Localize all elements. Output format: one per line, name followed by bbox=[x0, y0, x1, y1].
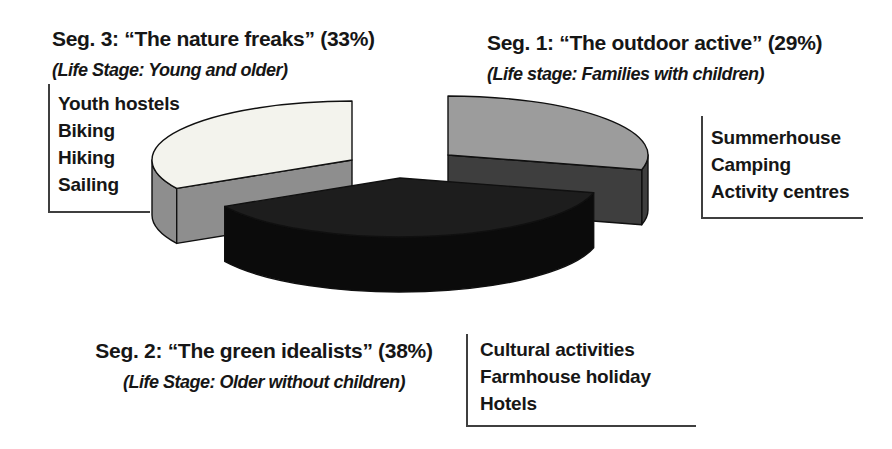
seg3-activity-item: Sailing bbox=[58, 171, 150, 198]
seg3-title-block: Seg. 3: “The nature freaks” (33%) (Life … bbox=[52, 26, 375, 82]
seg1-title: Seg. 1: “The outdoor active” (29%) bbox=[487, 30, 822, 56]
seg1-activity-item: Camping bbox=[711, 151, 863, 178]
seg2-title: Seg. 2: “The green idealists” (38%) bbox=[58, 338, 470, 364]
seg3-activities-callout: Youth hostels Biking Hiking Sailing bbox=[48, 84, 150, 213]
seg2-subtitle: (Life Stage: Older without children) bbox=[58, 370, 470, 394]
seg1-activities-callout: Summerhouse Camping Activity centres bbox=[701, 116, 863, 219]
seg3-activity-item: Hiking bbox=[58, 144, 150, 171]
seg2-activity-item: Farmhouse holiday bbox=[480, 363, 696, 390]
pie-chart-figure: Seg. 3: “The nature freaks” (33%) (Life … bbox=[0, 0, 892, 449]
seg3-subtitle: (Life Stage: Young and older) bbox=[52, 58, 375, 82]
seg3-title: Seg. 3: “The nature freaks” (33%) bbox=[52, 26, 375, 52]
seg2-activity-item: Hotels bbox=[480, 390, 696, 417]
seg1-title-block: Seg. 1: “The outdoor active” (29%) (Life… bbox=[487, 30, 822, 86]
seg2-activity-item: Cultural activities bbox=[480, 336, 696, 363]
seg1-activity-item: Summerhouse bbox=[711, 124, 863, 151]
seg3-activity-item: Youth hostels bbox=[58, 90, 150, 117]
seg3-activity-item: Biking bbox=[58, 117, 150, 144]
seg2-title-block: Seg. 2: “The green idealists” (38%) (Lif… bbox=[58, 338, 470, 394]
seg1-activity-item: Activity centres bbox=[711, 178, 863, 205]
seg2-activities-callout: Cultural activities Farmhouse holiday Ho… bbox=[466, 334, 696, 427]
seg1-subtitle: (Life stage: Families with children) bbox=[487, 62, 822, 86]
